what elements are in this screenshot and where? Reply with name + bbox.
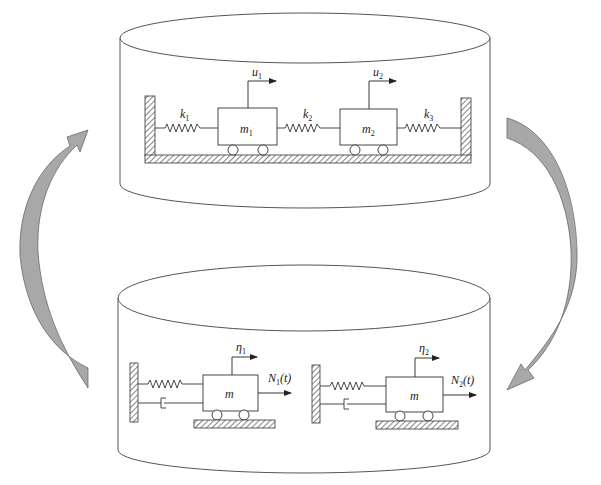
wheel — [350, 145, 360, 155]
wall — [130, 363, 138, 422]
wheel — [423, 411, 433, 421]
floor — [376, 421, 458, 429]
right-curved-arrow-icon — [507, 118, 577, 390]
wheel — [228, 145, 238, 155]
label-mass: m — [225, 387, 234, 401]
wheel — [212, 410, 222, 420]
right-wall — [461, 98, 471, 156]
wheel — [239, 410, 249, 420]
wheel — [258, 145, 268, 155]
wall — [312, 365, 320, 423]
left-wall — [145, 96, 155, 156]
diagram-canvas: k1 m1 u1 k2 m2 u2 k3 — [0, 0, 601, 485]
wheel — [395, 411, 405, 421]
label-force-n2: N2(t) — [450, 373, 474, 389]
floor — [194, 420, 275, 428]
left-curved-arrow-icon — [20, 130, 88, 388]
wheel — [378, 145, 388, 155]
bottom-cylinder — [118, 265, 490, 473]
label-force-n1: N1(t) — [267, 371, 291, 387]
label-mass: m — [410, 389, 419, 403]
floor — [145, 155, 471, 163]
